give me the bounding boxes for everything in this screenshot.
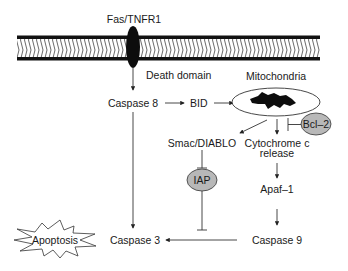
bid-label: BID: [190, 97, 208, 109]
bcl2-label: Bcl–2: [303, 118, 329, 130]
death-domain-label: Death domain: [146, 69, 212, 81]
arrow-mito-smac: [240, 120, 267, 133]
caspase3-label: Caspase 3: [110, 234, 160, 246]
receptor-label: Fas/TNFR1: [107, 13, 161, 25]
smac-label: Smac/DIABLO: [168, 137, 236, 149]
cytochrome-label-line2: release: [260, 147, 295, 159]
iap-label: IAP: [194, 174, 211, 186]
cell-membrane: [17, 36, 320, 61]
apaf1-label: Apaf–1: [260, 183, 293, 195]
caspase9-label: Caspase 9: [252, 234, 302, 246]
apoptosis-pathway-diagram: Fas/TNFR1 Death domain Caspase 8 BID Mit…: [0, 0, 348, 271]
fas-receptor-icon: [126, 26, 140, 68]
mitochondria-label: Mitochondria: [246, 70, 306, 82]
apoptosis-label: Apoptosis: [32, 234, 78, 246]
caspase8-label: Caspase 8: [108, 97, 158, 109]
